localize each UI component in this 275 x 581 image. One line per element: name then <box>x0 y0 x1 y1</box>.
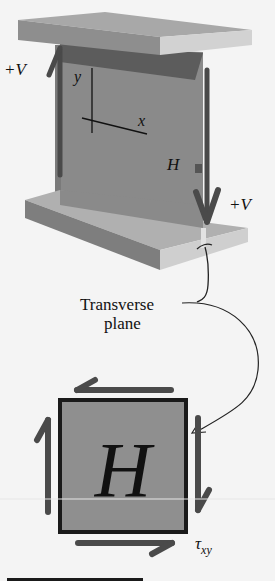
point-h-label: H <box>166 155 181 174</box>
callout-line1: Transverse <box>80 295 154 314</box>
stress-element: H τxy <box>37 380 212 557</box>
callout-line2: plane <box>104 314 141 333</box>
callout-leader-curve <box>182 303 258 431</box>
element-label: H <box>94 426 155 513</box>
shear-diagram: y x +V +V H Transverse plane H <box>0 0 275 581</box>
axis-y-label: y <box>72 68 82 86</box>
stress-label-sub: xy <box>200 543 212 557</box>
shear-right-label: +V <box>229 195 253 214</box>
axis-x-label: x <box>137 112 145 129</box>
point-h-marker <box>195 164 202 173</box>
beam <box>18 12 252 270</box>
shear-left-label: +V <box>4 60 28 79</box>
stress-label: τxy <box>195 534 212 557</box>
